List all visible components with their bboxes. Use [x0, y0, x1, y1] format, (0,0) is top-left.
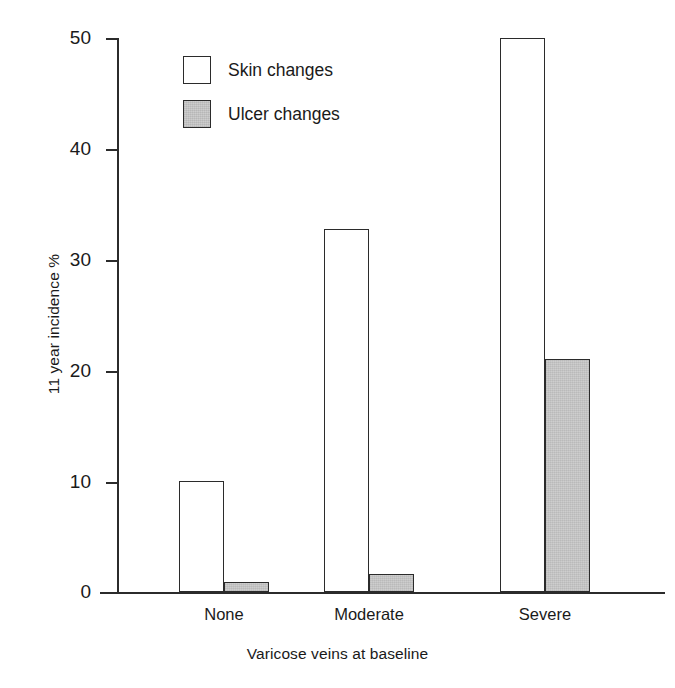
legend-label-skin-changes: Skin changes [228, 60, 333, 81]
bar-ulcer-severe [545, 359, 590, 592]
open-square-swatch-icon [183, 56, 211, 84]
bar-ulcer-none [224, 582, 269, 592]
legend-item-ulcer-changes: Ulcer changes [183, 92, 433, 136]
legend-item-skin-changes: Skin changes [183, 48, 433, 92]
y-tick-0 [106, 592, 118, 594]
x-group-label-moderate: Moderate [279, 605, 459, 624]
x-group-label-severe: Severe [455, 605, 635, 624]
bar-skin-severe [500, 38, 545, 592]
x-axis-line [100, 592, 665, 594]
bar-ulcer-moderate [369, 574, 414, 592]
bar-skin-moderate [324, 229, 369, 592]
legend-label-ulcer-changes: Ulcer changes [228, 104, 340, 125]
filled-square-swatch-icon [183, 100, 211, 128]
bar-skin-none [179, 481, 224, 592]
x-axis-title: Varicose veins at baseline [0, 645, 675, 663]
legend: Skin changes Ulcer changes [183, 48, 433, 136]
bar-chart: 11 year incidence % 50 40 30 20 10 0 Non… [0, 0, 675, 688]
